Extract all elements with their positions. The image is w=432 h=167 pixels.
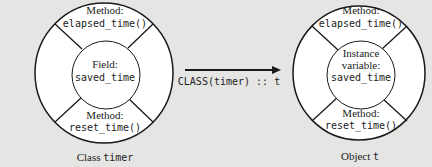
object-bottom-method-label: Method:	[342, 107, 379, 119]
class-bottom-method-label: Method:	[86, 109, 123, 121]
class-field-label: Field:	[92, 58, 118, 70]
object-instance-name: saved_time	[331, 72, 391, 84]
diagram-canvas: Method: elapsed_time() Field: saved_time…	[0, 0, 432, 167]
class-bottom-method-name: reset_time()	[69, 122, 141, 134]
object-top-method-label: Method:	[342, 4, 379, 16]
class-top-method-name: elapsed_time()	[63, 18, 147, 30]
caption-prefix: Class	[77, 151, 101, 163]
arrowhead-icon	[272, 66, 281, 74]
object-instance-label-2: variable:	[342, 59, 380, 71]
class-timer-diagram: Method: elapsed_time() Field: saved_time…	[35, 3, 173, 163]
instantiation-arrow: CLASS(timer) :: t	[178, 66, 281, 87]
caption-name: timer	[103, 152, 133, 163]
class-caption: Class timer	[77, 151, 134, 163]
arrow-label: CLASS(timer) :: t	[178, 76, 280, 87]
object-caption: Object t	[341, 150, 379, 162]
class-top-method-label: Method:	[86, 4, 123, 16]
caption-prefix: Object	[341, 150, 370, 162]
object-top-method-name: elapsed_time()	[319, 18, 403, 30]
object-instance-label-1: Instance	[343, 47, 380, 59]
caption-name: t	[373, 151, 379, 162]
class-field-name: saved_time	[75, 72, 135, 84]
object-bottom-method-name: reset_time()	[325, 120, 397, 132]
object-t-diagram: Method: elapsed_time() Instance variable…	[293, 4, 425, 162]
